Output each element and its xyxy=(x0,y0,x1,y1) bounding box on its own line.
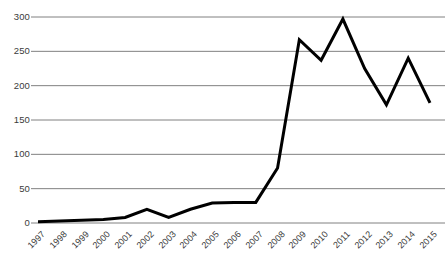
y-tick-label-150: 150 xyxy=(2,114,30,125)
y-tick-label-250: 250 xyxy=(2,45,30,56)
line-chart: 050100150200250300 199719981999200020012… xyxy=(0,0,448,264)
y-tick-label-300: 300 xyxy=(2,11,30,22)
y-tick-label-100: 100 xyxy=(2,148,30,159)
y-tick-label-200: 200 xyxy=(2,80,30,91)
y-tick-label-0: 0 xyxy=(2,217,30,228)
y-tick-label-50: 50 xyxy=(2,183,30,194)
chart-plot-area xyxy=(0,0,448,264)
gridlines xyxy=(31,17,445,223)
